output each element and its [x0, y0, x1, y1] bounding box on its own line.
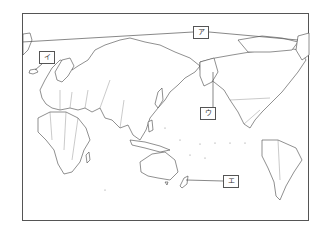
canadian-arctic — [238, 36, 298, 52]
iceland — [29, 69, 38, 74]
label-a: ア — [193, 26, 209, 39]
indonesia — [130, 140, 170, 152]
africa — [38, 112, 90, 174]
philippines — [148, 120, 153, 132]
greenland-west — [23, 33, 32, 55]
world-map — [0, 0, 327, 234]
madagascar — [86, 152, 90, 163]
leader-line-i — [35, 64, 42, 70]
label-e-text: エ — [228, 178, 235, 185]
leader-line-e — [186, 180, 223, 181]
label-i-text: イ — [44, 54, 51, 61]
label-a-text: ア — [198, 29, 205, 36]
label-e: エ — [223, 175, 239, 188]
tasmania — [165, 182, 168, 185]
australia — [140, 152, 178, 180]
label-u-text: ウ — [205, 110, 212, 117]
south-america — [262, 140, 302, 200]
new-zealand — [180, 176, 188, 188]
label-u: ウ — [200, 107, 216, 120]
label-i: イ — [39, 51, 55, 64]
